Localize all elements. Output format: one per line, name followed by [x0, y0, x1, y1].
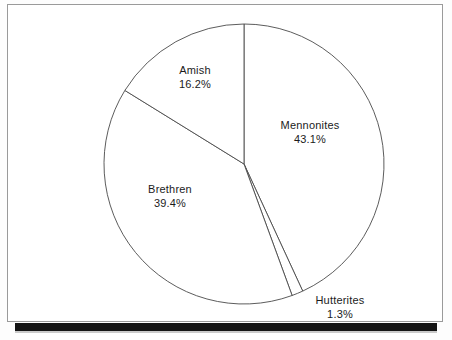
- pie-label-mennonites: Mennonites 43.1%: [255, 118, 365, 146]
- pie-label-hutterites-name: Hutterites: [290, 293, 390, 307]
- pie-label-hutterites: Hutterites 1.3%: [290, 293, 390, 321]
- pie-label-brethren-value: 39.4%: [120, 196, 220, 210]
- pie-label-mennonites-name: Mennonites: [255, 118, 365, 132]
- pie-label-hutterites-value: 1.3%: [290, 307, 390, 321]
- pie-chart: [0, 0, 452, 340]
- pie-label-mennonites-value: 43.1%: [255, 132, 365, 146]
- pie-label-brethren-name: Brethren: [120, 182, 220, 196]
- pie-label-amish: Amish 16.2%: [150, 63, 240, 91]
- figure-container: Mennonites 43.1% Amish 16.2% Brethren 39…: [0, 0, 452, 340]
- pie-label-amish-value: 16.2%: [150, 77, 240, 91]
- page-bottom-bar-shadow: [15, 331, 437, 333]
- pie-label-brethren: Brethren 39.4%: [120, 182, 220, 210]
- pie-slice-group: [104, 24, 384, 304]
- page-bottom-black-bar: [15, 323, 437, 331]
- pie-label-amish-name: Amish: [150, 63, 240, 77]
